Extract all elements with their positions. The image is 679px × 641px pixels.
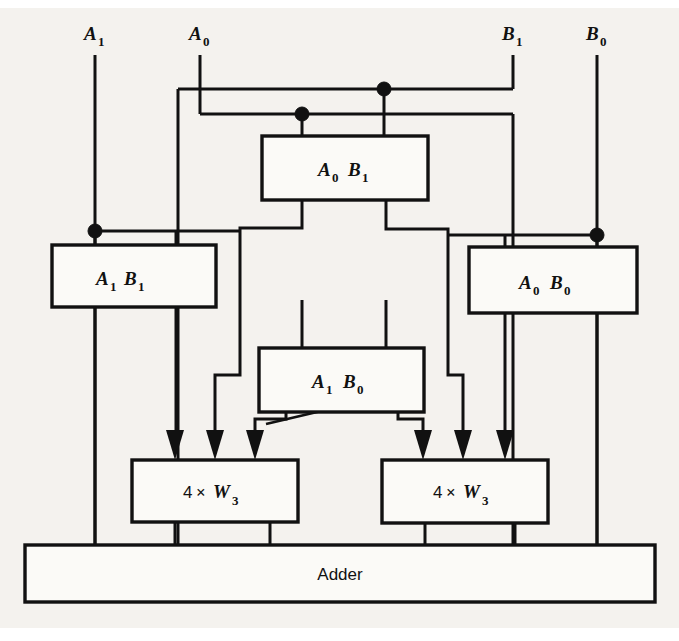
- block-A0B0-sub1: 0: [533, 283, 540, 298]
- multiplier-block-diagram: A 1 A 0 B 1 B 0 A 0 B 1 A 1 B 1 A 0 B 0 …: [0, 0, 679, 641]
- block-right-4xW3-base: W: [463, 481, 481, 502]
- block-A1B0-base1: A: [311, 371, 325, 392]
- figure-root: A 1 A 0 B 1 B 0 A 0 B 1 A 1 B 1 A 0 B 0 …: [0, 0, 679, 641]
- block-right-4xW3-prefix: 4: [433, 483, 442, 502]
- block-A1B0-base2: B: [342, 371, 356, 392]
- block-left-4xW3-mul: ×: [196, 483, 206, 502]
- block-left-4xW3-base: W: [213, 481, 231, 502]
- block-A0B1-base2: B: [347, 159, 361, 180]
- port-label-B1-base: B: [501, 23, 515, 44]
- block-A1B1-sub1: 1: [110, 279, 117, 294]
- junction-a1-bus-dot: [88, 224, 102, 238]
- port-label-A1-sub: 1: [98, 34, 105, 49]
- block-A0B1[interactable]: [262, 136, 428, 200]
- block-A0B1-sub2: 1: [362, 170, 369, 185]
- port-label-B1-sub: 1: [516, 34, 523, 49]
- page-bottom-margin: [0, 628, 679, 641]
- junction-b0-bus-dot: [590, 228, 604, 242]
- block-A0B0-sub2: 0: [564, 283, 571, 298]
- block-A0B0-base2: B: [549, 272, 563, 293]
- block-A0B0-base1: A: [518, 272, 532, 293]
- port-label-A0-sub: 0: [203, 34, 210, 49]
- block-left-4xW3-prefix: 4: [183, 483, 192, 502]
- page-top-margin: [0, 0, 679, 8]
- block-A1B1-sub2: 1: [138, 279, 145, 294]
- port-label-A1-base: A: [83, 23, 97, 44]
- port-label-A0-base: A: [188, 23, 202, 44]
- block-A0B1-base1: A: [317, 159, 331, 180]
- block-A1B0-sub2: 0: [357, 382, 364, 397]
- block-A1B1-base2: B: [123, 268, 137, 289]
- junction-b1-top-dot: [377, 82, 391, 96]
- block-A1B0-sub1: 1: [326, 382, 333, 397]
- port-label-B0-sub: 0: [600, 34, 607, 49]
- block-A1B1-base1: A: [95, 268, 109, 289]
- block-left-4xW3-sub: 3: [232, 493, 239, 508]
- block-A1B0[interactable]: [259, 348, 424, 412]
- port-label-B0-base: B: [585, 23, 599, 44]
- junction-a0-mid-dot: [295, 107, 309, 121]
- block-right-4xW3-mul: ×: [446, 483, 456, 502]
- block-right-4xW3-sub: 3: [482, 493, 489, 508]
- block-A0B1-sub1: 0: [332, 170, 339, 185]
- block-adder-label: Adder: [317, 565, 363, 584]
